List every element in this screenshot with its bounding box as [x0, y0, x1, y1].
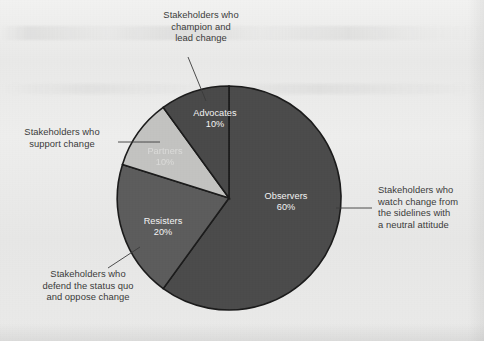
- annotation-partners: Stakeholders who support change: [8, 126, 116, 149]
- slice-label-resisters: Resisters 20%: [127, 216, 199, 239]
- slice-label-partners: Partners 10%: [132, 146, 198, 169]
- annotation-resisters: Stakeholders who defend the status quo a…: [22, 268, 154, 303]
- chart-page: Advocates 10% Partners 10% Resisters 20%…: [0, 0, 484, 341]
- annotation-advocates: Stakeholders who champion and lead chang…: [136, 9, 266, 44]
- annotation-observers: Stakeholders who watch change from the s…: [378, 184, 482, 230]
- slice-label-advocates: Advocates 10%: [176, 108, 254, 131]
- slice-label-observers: Observers 60%: [246, 191, 326, 214]
